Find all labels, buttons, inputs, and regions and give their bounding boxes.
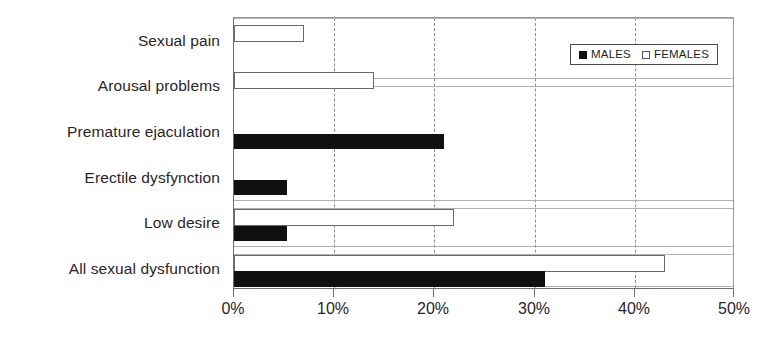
empty-square-icon [642, 51, 650, 59]
band-line-5 [234, 246, 733, 247]
category-label-premature-ejaculation: Premature ejaculation [67, 124, 220, 140]
legend-label-females: FEMALES [654, 49, 709, 61]
category-label-sexual-pain: Sexual pain [138, 33, 220, 49]
bar-female-low-desire [234, 209, 454, 226]
chart-legend: MALES FEMALES [570, 44, 718, 65]
x-tick-label-20: 20% [417, 301, 449, 317]
bar-female-sexual-pain [234, 25, 304, 42]
category-label-erectile-dysfunction: Erectile dysfynction [84, 170, 220, 186]
legend-item-males: MALES [579, 49, 631, 61]
x-tick-label-10: 10% [317, 301, 349, 317]
bar-female-arousal-problems [234, 72, 374, 89]
bar-male-all-sexual-dysfunction [234, 271, 545, 287]
band-line-3 [234, 200, 733, 201]
legend-label-males: MALES [591, 49, 631, 61]
legend-item-females: FEMALES [642, 49, 709, 61]
bar-female-all-sexual-dysfunction [234, 255, 665, 272]
x-tick-label-50: 50% [718, 301, 750, 317]
filled-square-icon [579, 51, 587, 59]
x-tick-label-30: 30% [518, 301, 550, 317]
x-tick-50 [733, 289, 734, 297]
category-label-low-desire: Low desire [144, 215, 220, 231]
gridline-30 [535, 18, 536, 288]
category-label-arousal-problems: Arousal problems [98, 78, 220, 94]
x-tick-30 [534, 289, 535, 297]
x-tick-label-0: 0% [221, 301, 244, 317]
bar-male-low-desire [234, 226, 287, 241]
bar-male-premature-ejaculation [234, 134, 444, 149]
chart-figure: Sexual pain Arousal problems Premature e… [0, 0, 774, 350]
category-label-all-sexual-dysfunction: All sexual dysfunction [69, 261, 220, 277]
x-tick-10 [333, 289, 334, 297]
gridline-20 [434, 18, 435, 288]
x-axis [233, 289, 734, 297]
x-tick-0 [233, 289, 234, 297]
x-tick-40 [634, 289, 635, 297]
bar-male-erectile-dysfunction [234, 180, 287, 195]
gridline-10 [334, 18, 335, 288]
x-tick-label-40: 40% [618, 301, 650, 317]
x-tick-20 [433, 289, 434, 297]
band-line-0 [234, 18, 733, 19]
